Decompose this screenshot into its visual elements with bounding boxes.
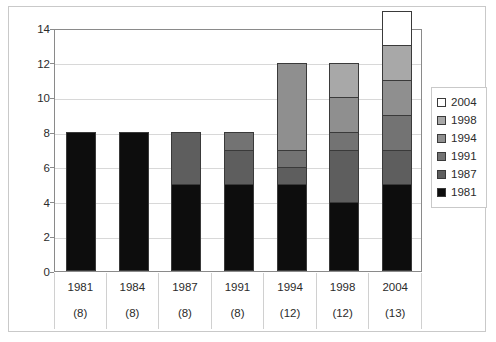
x-axis-category: 1987(8) [159, 273, 212, 329]
bar-stack[interactable] [119, 132, 149, 271]
x-axis-count-label: (8) [55, 307, 106, 319]
legend-item-label: 1991 [451, 151, 477, 162]
bar-segment[interactable] [329, 202, 359, 271]
bar-segment[interactable] [382, 11, 412, 46]
gridline [55, 99, 421, 100]
x-axis-count-label: (8) [159, 307, 211, 319]
x-axis-category: 1998(12) [317, 273, 370, 329]
bar-stack[interactable] [329, 63, 359, 271]
bar-segment[interactable] [224, 150, 254, 185]
x-axis-category: 1981(8) [54, 273, 107, 329]
y-axis-tick-label: 2 [20, 232, 50, 242]
bar-segment[interactable] [382, 80, 412, 115]
bar-segment[interactable] [224, 184, 254, 271]
legend-swatch-icon [437, 98, 446, 107]
bar-segment[interactable] [224, 132, 254, 149]
y-axis-tick-label: 4 [20, 198, 50, 208]
x-axis-year-label: 1987 [159, 281, 211, 293]
bar-segment[interactable] [277, 184, 307, 271]
x-axis-year-label: 2004 [369, 281, 421, 293]
legend-item[interactable]: 1991 [437, 147, 482, 165]
plot-area [54, 29, 422, 272]
legend-item[interactable]: 1987 [437, 165, 482, 183]
bar-segment[interactable] [382, 115, 412, 150]
x-axis-category: 1984(8) [107, 273, 160, 329]
legend-item[interactable]: 1981 [437, 183, 482, 201]
legend-item-label: 1987 [451, 169, 477, 180]
x-axis-category: 1994(12) [264, 273, 317, 329]
y-axis-tick-label: 0 [20, 267, 50, 277]
x-axis-category: 1991(8) [212, 273, 265, 329]
bar-segment[interactable] [382, 184, 412, 271]
legend-item[interactable]: 1998 [437, 111, 482, 129]
y-axis-tick-label: 14 [20, 24, 50, 34]
x-axis-count-label: (8) [107, 307, 159, 319]
legend-swatch-icon [437, 116, 446, 125]
gridline [55, 64, 421, 65]
legend-item[interactable]: 1994 [437, 129, 482, 147]
x-axis-year-label: 1984 [107, 281, 159, 293]
x-axis-count-label: (8) [212, 307, 264, 319]
bar-stack[interactable] [382, 11, 412, 271]
legend-item-label: 2004 [451, 97, 477, 108]
x-axis-year-label: 1991 [212, 281, 264, 293]
bar-segment[interactable] [277, 63, 307, 150]
legend-swatch-icon [437, 188, 446, 197]
bar-stack[interactable] [277, 63, 307, 271]
x-axis-count-label: (12) [317, 307, 369, 319]
y-axis-tick-label: 10 [20, 93, 50, 103]
y-axis-tick-label: 12 [20, 59, 50, 69]
x-axis-year-label: 1994 [264, 281, 316, 293]
bar-segment[interactable] [329, 63, 359, 98]
bar-segment[interactable] [277, 167, 307, 184]
x-axis-year-label: 1981 [55, 281, 106, 293]
y-axis-tick-label: 8 [20, 128, 50, 138]
legend-item-label: 1994 [451, 133, 477, 144]
chart-legend: 200419981994199119871981 [431, 87, 487, 208]
bar-stack[interactable] [171, 132, 201, 271]
x-axis-count-label: (13) [369, 307, 421, 319]
bar-segment[interactable] [382, 150, 412, 185]
x-axis-count-label: (12) [264, 307, 316, 319]
bar-segment[interactable] [171, 132, 201, 184]
x-axis-year-label: 1998 [317, 281, 369, 293]
legend-swatch-icon [437, 152, 446, 161]
y-axis-tick-label: 6 [20, 163, 50, 173]
legend-swatch-icon [437, 170, 446, 179]
y-axis: 02468101214 [14, 29, 50, 272]
x-axis-category: 2004(13) [369, 273, 422, 329]
bar-segment[interactable] [277, 150, 307, 167]
bar-segment[interactable] [382, 45, 412, 80]
x-axis-labels: 1981(8)1984(8)1987(8)1991(8)1994(12)1998… [54, 273, 422, 329]
bar-segment[interactable] [119, 132, 149, 271]
bar-segment[interactable] [329, 97, 359, 132]
legend-item-label: 1981 [451, 187, 477, 198]
legend-swatch-icon [437, 134, 446, 143]
bar-segment[interactable] [171, 184, 201, 271]
legend-item[interactable]: 2004 [437, 93, 482, 111]
bar-stack[interactable] [224, 132, 254, 271]
bar-segment[interactable] [66, 132, 96, 271]
legend-item-label: 1998 [451, 115, 477, 126]
chart-frame: 02468101214 1981(8)1984(8)1987(8)1991(8)… [8, 6, 486, 332]
bar-segment[interactable] [329, 132, 359, 149]
bar-stack[interactable] [66, 132, 96, 271]
bar-segment[interactable] [329, 150, 359, 202]
